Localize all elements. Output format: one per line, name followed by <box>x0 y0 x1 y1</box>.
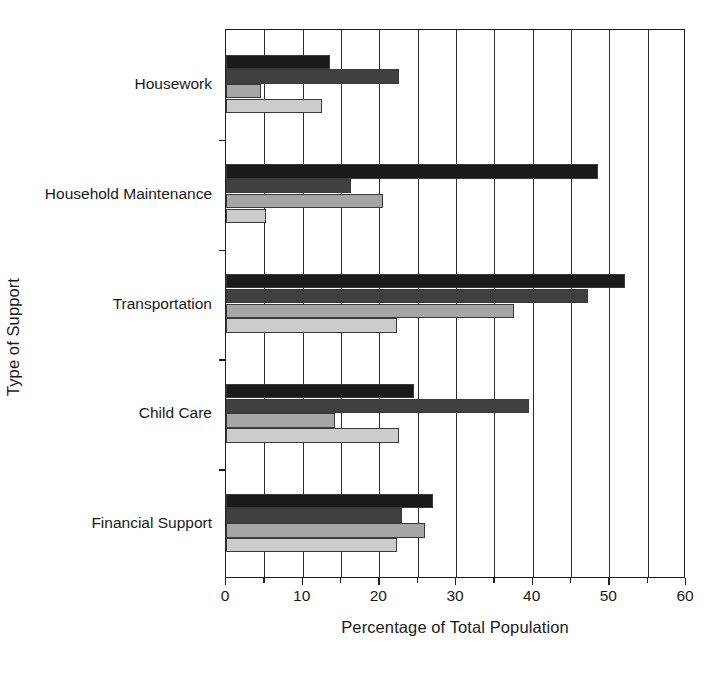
x-axis-minor-tick <box>647 578 648 583</box>
bar <box>226 84 261 98</box>
bar-chart: Type of Support HouseworkHousehold Maint… <box>0 0 715 674</box>
bar <box>226 304 514 318</box>
x-axis-tick <box>685 578 686 585</box>
x-axis-title: Percentage of Total Population <box>225 618 685 637</box>
y-axis-category-labels: HouseworkHousehold MaintenanceTransporta… <box>0 29 215 578</box>
x-axis-tick-label: 60 <box>663 587 707 605</box>
bar <box>226 384 414 398</box>
bar-stack <box>226 55 684 116</box>
x-axis-minor-tick <box>493 578 494 583</box>
bar-group <box>226 140 684 250</box>
x-axis-minor-tick <box>263 578 264 583</box>
x-axis-tick-label: 20 <box>356 587 400 605</box>
bar <box>226 55 330 69</box>
x-axis-tick <box>225 578 226 585</box>
bar-group <box>226 250 684 360</box>
bar <box>226 523 425 537</box>
bar <box>226 194 383 208</box>
x-axis-tick-label: 10 <box>280 587 324 605</box>
bar-group <box>226 30 684 140</box>
category-label: Housework <box>0 74 212 94</box>
bar <box>226 538 397 552</box>
plot-area <box>225 29 685 578</box>
bar <box>226 164 598 178</box>
bar <box>226 428 399 442</box>
x-axis-tick <box>532 578 533 585</box>
bar <box>226 99 322 113</box>
bar-stack <box>226 164 684 225</box>
x-axis-minor-tick <box>570 578 571 583</box>
x-axis-tick <box>455 578 456 585</box>
bar <box>226 318 397 332</box>
x-axis-ticks: 0102030405060 <box>225 578 685 614</box>
y-axis-tick <box>219 250 226 251</box>
y-axis-tick <box>219 359 226 360</box>
bar-group <box>226 469 684 579</box>
bar <box>226 399 529 413</box>
category-label: Financial Support <box>0 513 212 533</box>
x-axis-tick-label: 40 <box>510 587 554 605</box>
x-axis-minor-tick <box>417 578 418 583</box>
category-label: Child Care <box>0 403 212 423</box>
bar <box>226 69 399 83</box>
x-axis-tick-label: 30 <box>433 587 477 605</box>
bar <box>226 179 351 193</box>
x-axis-minor-tick <box>340 578 341 583</box>
x-axis-tick-label: 0 <box>203 587 247 605</box>
x-axis-tick <box>302 578 303 585</box>
x-axis-tick-label: 50 <box>586 587 630 605</box>
bar-stack <box>226 494 684 555</box>
y-axis-tick <box>219 140 226 141</box>
bar <box>226 494 433 508</box>
y-axis-tick <box>219 469 226 470</box>
x-axis-tick <box>608 578 609 585</box>
bar <box>226 413 335 427</box>
bar <box>226 209 266 223</box>
category-label: Transportation <box>0 294 212 314</box>
bar <box>226 508 402 522</box>
bar-group <box>226 359 684 469</box>
bar-stack <box>226 274 684 335</box>
bar-stack <box>226 384 684 445</box>
bar <box>226 289 588 303</box>
bar <box>226 274 625 288</box>
category-label: Household Maintenance <box>0 184 212 204</box>
x-axis-tick <box>378 578 379 585</box>
